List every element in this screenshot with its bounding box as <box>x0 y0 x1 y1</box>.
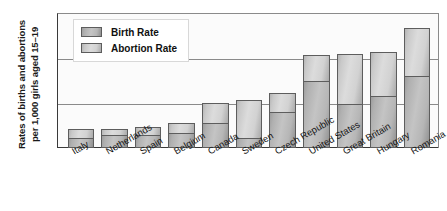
bar-segment-abortion-rate <box>337 54 364 104</box>
y-axis-title: Rates of births and abortions per 1,000 … <box>16 10 41 160</box>
bar-segment-abortion-rate <box>168 123 195 133</box>
bar-segment-abortion-rate <box>404 28 431 76</box>
bar-segment-abortion-rate <box>236 100 263 138</box>
legend-label-birth-rate: Birth Rate <box>111 27 159 38</box>
stacked-bar[interactable] <box>404 28 431 148</box>
bar-segment-abortion-rate <box>303 55 330 81</box>
legend-item-birth-rate: Birth Rate <box>81 25 177 39</box>
birth-rate-swatch <box>81 27 102 37</box>
legend-item-abortion-rate: Abortion Rate <box>81 41 177 55</box>
bar-segment-abortion-rate <box>202 103 229 123</box>
bar-segment-abortion-rate <box>269 93 296 112</box>
bar-slot <box>267 14 298 148</box>
bar-segment-abortion-rate <box>370 52 397 96</box>
bar-slot <box>234 14 265 148</box>
bar-slot <box>200 14 231 148</box>
bar-segment-abortion-rate <box>68 129 95 139</box>
chart-legend: Birth Rate Abortion Rate <box>73 19 189 62</box>
abortion-rate-swatch <box>81 43 102 53</box>
legend-label-abortion-rate: Abortion Rate <box>111 43 177 54</box>
bar-slot <box>402 14 433 148</box>
x-axis-labels: ItalyNetherlandsSpainBelgiumCanadaSweden… <box>57 148 439 211</box>
